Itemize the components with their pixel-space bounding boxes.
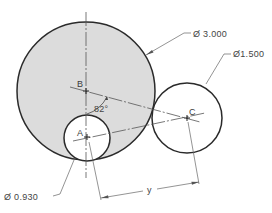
diameter-label-small: Ø 0.930: [4, 192, 38, 202]
arrow-left: [101, 195, 109, 198]
drawing-canvas: B A C 82° Ø 3.000 Ø1.500 Ø 0.930 y: [0, 0, 272, 213]
leader-0930: [53, 160, 74, 196]
diameter-label-medium: Ø1.500: [233, 49, 264, 59]
point-label-c: C: [189, 107, 196, 117]
arrow-right: [191, 182, 199, 185]
dimension-label-y: y: [147, 185, 152, 195]
point-label-b: B: [77, 79, 83, 89]
leader-1500: [206, 54, 231, 84]
point-label-a: A: [77, 128, 83, 138]
diameter-label-large: Ø 3.000: [193, 29, 227, 39]
angle-label: 82°: [94, 104, 109, 114]
